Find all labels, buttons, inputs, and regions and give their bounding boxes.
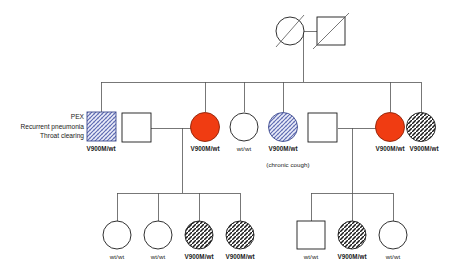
pedigree-symbols [87,13,436,249]
annotation-recurrent-pneumonia: Recurrent pneumonia [21,122,84,132]
pedigree-chart: PEX Recurrent pneumonia Throat clearing … [0,0,458,268]
annotation-pex: PEX [21,112,84,122]
symbol-III-5-male[interactable] [297,221,325,249]
symbol-III-2-female[interactable] [144,221,172,249]
annotation-throat-clearing: Throat clearing [21,131,84,141]
symbol-II-1-proband-male[interactable] [87,112,116,141]
symbol-II-6-male[interactable] [308,113,337,142]
genotype-label-III-1: wt/wt [110,253,124,261]
genotype-label-III-4: V900M/wt [225,253,254,261]
symbol-II-3-female-affected[interactable] [191,113,220,142]
genotype-label-III-7: wt/wt [386,253,400,261]
symbol-II-5-female-carrier[interactable] [269,113,298,142]
symbol-II-8-female-carrier[interactable] [407,113,436,142]
symbol-III-6-female-carrier[interactable] [338,221,366,249]
genotype-label-II-4: wt/wt [237,145,251,153]
genotype-label-III-6: V900M/wt [337,253,366,261]
genotype-label-II-7: V900M/wt [375,145,404,153]
symbol-II-2-male[interactable] [122,113,151,142]
genotype-label-II-5: V900M/wt [268,145,297,153]
genotype-label-II-8: V900M/wt [409,145,438,153]
symbol-III-7-female[interactable] [379,221,407,249]
symbol-II-7-female-affected[interactable] [376,113,405,142]
symbol-III-1-female[interactable] [103,221,131,249]
symbol-II-4-female[interactable] [230,113,258,141]
genotype-label-III-2: wt/wt [151,253,165,261]
symbol-III-3-female-carrier[interactable] [185,221,213,249]
note-chronic-cough: (chronic cough) [266,161,309,169]
proband-annotations: PEX Recurrent pneumonia Throat clearing [21,112,84,141]
genotype-label-II-1: V900M/wt [86,145,115,153]
genotype-label-III-5: wt/wt [304,253,318,261]
genotype-label-II-3: V900M/wt [190,145,219,153]
symbol-III-4-female-carrier[interactable] [226,221,254,249]
genotype-label-III-3: V900M/wt [184,253,213,261]
